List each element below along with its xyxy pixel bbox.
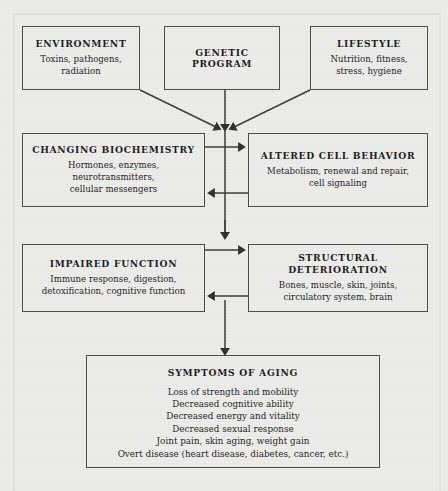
node-lifestyle-body: Nutrition, fitness, stress, hygiene: [330, 54, 407, 78]
node-genetic-program[interactable]: GENETIC PROGRAM: [164, 26, 280, 90]
node-symptoms-of-aging-title: SYMPTOMS OF AGING: [168, 367, 298, 379]
node-changing-biochemistry-title: CHANGING BIOCHEMISTRY: [32, 144, 195, 156]
node-structural-deterioration-title: STRUCTURAL DETERIORATION: [255, 252, 421, 275]
node-altered-cell-behavior-body: Metabolism, renewal and repair, cell sig…: [267, 166, 409, 190]
node-genetic-program-title: GENETIC PROGRAM: [192, 47, 252, 70]
node-environment[interactable]: ENVIRONMENT Toxins, pathogens, radiation: [22, 26, 140, 90]
diagram-canvas: ENVIRONMENT Toxins, pathogens, radiation…: [0, 0, 448, 491]
node-environment-title: ENVIRONMENT: [36, 38, 127, 50]
node-symptoms-of-aging[interactable]: SYMPTOMS OF AGING Loss of strength and m…: [86, 355, 380, 468]
node-altered-cell-behavior[interactable]: ALTERED CELL BEHAVIOR Metabolism, renewa…: [248, 133, 428, 207]
node-altered-cell-behavior-title: ALTERED CELL BEHAVIOR: [261, 150, 416, 162]
node-structural-deterioration-body: Bones, muscle, skin, joints, circulatory…: [279, 280, 397, 304]
node-symptoms-of-aging-body: Loss of strength and mobility Decreased …: [118, 386, 349, 461]
edge-lifestyle-to-biochemistry: [232, 90, 310, 128]
node-structural-deterioration[interactable]: STRUCTURAL DETERIORATION Bones, muscle, …: [248, 244, 428, 312]
node-changing-biochemistry-body: Hormones, enzymes, neurotransmitters, ce…: [68, 160, 159, 196]
node-impaired-function-body: Immune response, digestion, detoxificati…: [42, 274, 185, 298]
node-impaired-function[interactable]: IMPAIRED FUNCTION Immune response, diges…: [22, 244, 205, 312]
node-lifestyle-title: LIFESTYLE: [337, 38, 401, 50]
node-changing-biochemistry[interactable]: CHANGING BIOCHEMISTRY Hormones, enzymes,…: [22, 133, 205, 207]
edge-environment-to-biochemistry: [140, 90, 218, 128]
node-impaired-function-title: IMPAIRED FUNCTION: [50, 258, 178, 270]
node-lifestyle[interactable]: LIFESTYLE Nutrition, fitness, stress, hy…: [310, 26, 428, 90]
node-environment-body: Toxins, pathogens, radiation: [40, 54, 121, 78]
